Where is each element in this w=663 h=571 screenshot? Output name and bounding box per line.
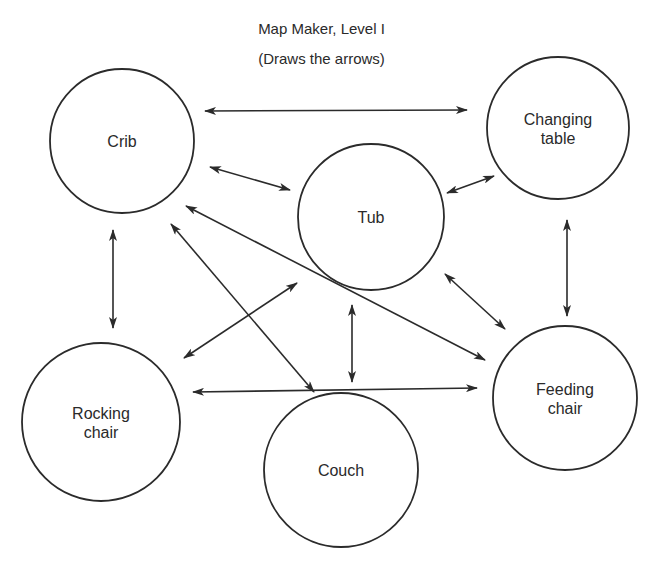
arrow-crib-to-couch	[171, 224, 314, 392]
node-label: chair	[548, 400, 583, 417]
nodes-layer: CribChangingtableTubRockingchairCouchFee…	[22, 57, 637, 547]
node-couch: Couch	[264, 393, 418, 547]
arrow-line	[447, 176, 494, 193]
arrow-crib-to-changing-table	[205, 110, 467, 111]
arrow-crib-to-tub	[210, 167, 290, 190]
arrow-line	[205, 110, 467, 111]
node-circle	[22, 343, 180, 501]
node-label: Tub	[358, 209, 385, 226]
node-circle	[493, 326, 637, 470]
node-label: Couch	[318, 462, 364, 479]
arrow-rocking-chair-to-feeding-chair	[193, 388, 477, 392]
node-label: chair	[84, 424, 119, 441]
node-label: table	[541, 130, 576, 147]
node-label: Rocking	[72, 405, 130, 422]
map-diagram: CribChangingtableTubRockingchairCouchFee…	[0, 0, 663, 571]
node-label: Crib	[107, 133, 136, 150]
arrow-tub-to-changing-table	[447, 176, 494, 193]
arrow-line	[184, 283, 297, 358]
arrow-line	[210, 167, 290, 190]
node-feeding-chair: Feedingchair	[493, 326, 637, 470]
arrow-line	[186, 206, 485, 360]
node-circle	[487, 57, 629, 199]
node-rocking-chair: Rockingchair	[22, 343, 180, 501]
edges-layer	[113, 110, 567, 392]
arrow-rocking-chair-to-tub	[184, 283, 297, 358]
arrow-tub-to-feeding-chair	[445, 274, 505, 329]
node-tub: Tub	[298, 144, 444, 290]
arrow-line	[193, 388, 477, 392]
node-changing-table: Changingtable	[487, 57, 629, 199]
arrow-line	[171, 224, 314, 392]
node-label: Changing	[524, 111, 593, 128]
arrow-crib-to-feeding-chair	[186, 206, 485, 360]
node-label: Feeding	[536, 381, 594, 398]
arrow-line	[445, 274, 505, 329]
node-crib: Crib	[50, 69, 194, 213]
